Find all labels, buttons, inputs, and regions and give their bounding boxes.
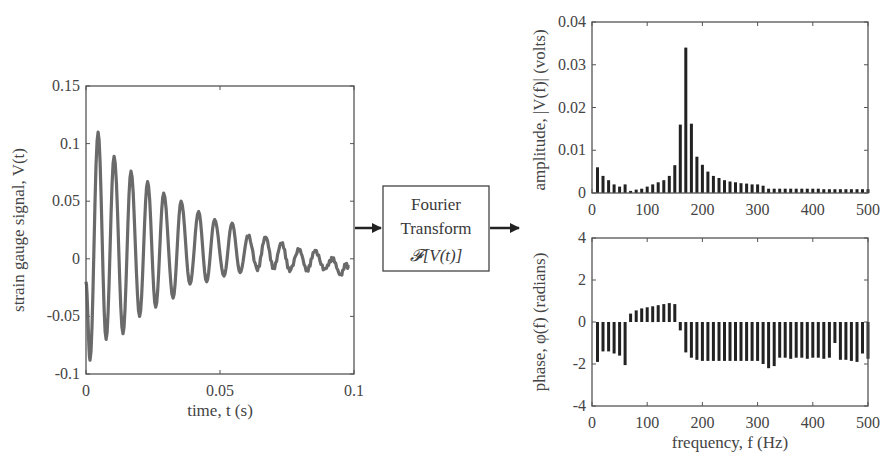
bar bbox=[751, 184, 754, 193]
bar bbox=[822, 322, 825, 359]
bar bbox=[734, 322, 737, 361]
x-tick-label: 300 bbox=[746, 414, 770, 431]
y-tick-label: 0.15 bbox=[52, 77, 80, 94]
bar bbox=[690, 124, 693, 193]
bar bbox=[856, 322, 859, 362]
bar bbox=[662, 180, 665, 193]
bar bbox=[839, 322, 842, 360]
phase-bars bbox=[596, 303, 870, 368]
transform-formula: 𝓕[V(t)] bbox=[410, 246, 463, 265]
bar bbox=[646, 307, 649, 322]
x-tick-label: 300 bbox=[746, 201, 770, 218]
bar bbox=[729, 322, 732, 361]
bar bbox=[844, 322, 847, 360]
bar bbox=[712, 322, 715, 361]
bar bbox=[657, 182, 660, 193]
x-tick-label: 400 bbox=[801, 414, 825, 431]
bar bbox=[712, 176, 715, 193]
time-signal-plot: -0.1-0.0500.050.10.1500.050.1 time, t (s… bbox=[9, 77, 364, 420]
bar bbox=[657, 305, 660, 322]
bar bbox=[651, 184, 654, 193]
bar bbox=[695, 322, 698, 360]
phase-spectrum-plot: -4-20240100200300400500 frequency, f (Hz… bbox=[530, 229, 880, 452]
bar bbox=[646, 187, 649, 193]
bar bbox=[773, 322, 776, 366]
x-tick-label: 500 bbox=[856, 414, 880, 431]
bar bbox=[718, 322, 721, 361]
y-tick-label: 4 bbox=[578, 229, 586, 246]
x-tick-label: 0 bbox=[82, 382, 90, 399]
x-tick-label: 100 bbox=[635, 201, 659, 218]
bar bbox=[701, 165, 704, 193]
time-x-axis-label: time, t (s) bbox=[187, 401, 253, 420]
bar bbox=[613, 322, 616, 354]
bar bbox=[756, 184, 759, 193]
bar bbox=[751, 322, 754, 361]
bar bbox=[795, 322, 798, 358]
y-tick-label: 0.02 bbox=[558, 99, 586, 116]
bar bbox=[673, 304, 676, 322]
bar bbox=[806, 322, 809, 359]
y-tick-label: -0.1 bbox=[55, 365, 80, 382]
bar bbox=[762, 322, 765, 364]
bar bbox=[784, 322, 787, 358]
bar bbox=[624, 322, 627, 365]
bar bbox=[778, 322, 781, 358]
x-tick-label: 400 bbox=[801, 201, 825, 218]
bar bbox=[635, 310, 638, 322]
bar bbox=[651, 306, 654, 322]
bar bbox=[640, 308, 643, 322]
bar bbox=[613, 184, 616, 193]
fourier-transform-box: Fourier Transform 𝓕[V(t)] bbox=[383, 186, 489, 271]
bar bbox=[828, 322, 831, 358]
y-tick-label: -0.05 bbox=[47, 307, 80, 324]
bar bbox=[800, 322, 803, 358]
bar bbox=[745, 184, 748, 193]
amplitude-plot-frame bbox=[592, 22, 868, 193]
transform-label-line2: Transform bbox=[400, 219, 471, 238]
phase-y-axis-label: phase, φ(f) (radians) bbox=[530, 253, 549, 392]
y-tick-label: 0 bbox=[72, 250, 80, 267]
figure-canvas: -0.1-0.0500.050.10.1500.050.1 time, t (s… bbox=[0, 0, 896, 467]
bar bbox=[729, 182, 732, 194]
signal-curve bbox=[86, 132, 349, 360]
y-tick-label: 0 bbox=[578, 313, 586, 330]
bar bbox=[668, 176, 671, 193]
bar bbox=[596, 322, 599, 362]
bar bbox=[861, 322, 864, 354]
y-tick-label: 0.03 bbox=[558, 56, 586, 73]
bar bbox=[624, 184, 627, 193]
bar bbox=[684, 322, 687, 352]
bar bbox=[629, 314, 632, 322]
x-tick-label: 200 bbox=[690, 201, 714, 218]
bar bbox=[602, 176, 605, 193]
bar bbox=[811, 322, 814, 358]
y-tick-label: 0.04 bbox=[558, 13, 586, 30]
bar bbox=[850, 322, 853, 361]
bar bbox=[718, 178, 721, 193]
bar bbox=[618, 322, 621, 356]
x-tick-label: 0 bbox=[588, 414, 596, 431]
bar bbox=[723, 180, 726, 193]
x-tick-label: 0.1 bbox=[344, 382, 364, 399]
bar bbox=[618, 187, 621, 193]
x-tick-label: 0 bbox=[588, 201, 596, 218]
bar bbox=[607, 322, 610, 351]
y-tick-label: 0.05 bbox=[52, 192, 80, 209]
bar bbox=[762, 186, 765, 193]
y-tick-label: -2 bbox=[573, 355, 586, 372]
bar bbox=[734, 182, 737, 193]
bar bbox=[767, 322, 770, 368]
bar bbox=[706, 322, 709, 361]
transform-label-line1: Fourier bbox=[411, 195, 461, 214]
time-y-axis-label: strain gauge signal, V(t) bbox=[9, 148, 28, 312]
amplitude-spectrum-plot: 00.010.020.030.040100200300400500 amplit… bbox=[530, 13, 880, 218]
bar bbox=[662, 304, 665, 322]
amplitude-y-axis-label: amplitude, |V(f)| (volts) bbox=[530, 29, 549, 190]
bar bbox=[723, 322, 726, 361]
bar bbox=[706, 172, 709, 193]
y-tick-label: 0.1 bbox=[60, 135, 80, 152]
bar bbox=[607, 180, 610, 193]
bar bbox=[817, 322, 820, 358]
bar bbox=[745, 322, 748, 361]
